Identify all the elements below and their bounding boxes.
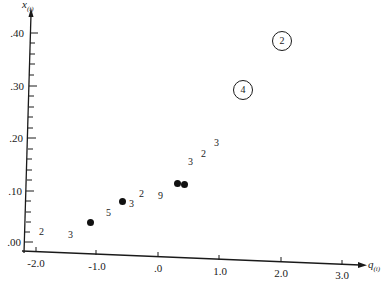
y-tick-label: .40 <box>2 28 24 39</box>
x-tick-label: 3.0 <box>325 270 359 281</box>
data-point-dot <box>174 180 181 187</box>
x-axis-arrow-icon <box>358 262 367 268</box>
x-tick-label: -1.0 <box>80 261 114 272</box>
x-tick-label: 1.0 <box>203 266 237 277</box>
count-label: 5 <box>106 208 111 218</box>
y-tick-label: .20 <box>1 133 23 144</box>
y-tick-label: .30 <box>2 81 24 92</box>
y-axis-label: x(i) <box>22 0 34 15</box>
y-tick-label: .00 <box>0 237 21 248</box>
circled-count-label: 4 <box>233 80 253 100</box>
count-label: 9 <box>158 191 163 201</box>
count-label: 3 <box>129 199 134 209</box>
y-axis-line <box>24 14 31 253</box>
x-tick-label: .0 <box>141 263 175 274</box>
data-point-dot <box>119 198 126 205</box>
count-label: 2 <box>39 227 44 237</box>
count-label: 3 <box>214 138 219 148</box>
data-point-dot <box>87 219 94 226</box>
count-label: 2 <box>201 149 206 159</box>
x-axis-line <box>22 251 360 265</box>
x-tick-label: 2.0 <box>264 268 298 279</box>
circled-count-label: 2 <box>272 31 292 51</box>
y-tick-label: .10 <box>0 186 22 197</box>
data-point-dot <box>181 181 188 188</box>
count-label: 2 <box>139 189 144 199</box>
x-axis-label: q(i) <box>368 259 380 275</box>
x-tick-label: -2.0 <box>19 258 53 269</box>
chart-axes <box>0 0 389 281</box>
count-label: 3 <box>68 230 73 240</box>
count-label: 3 <box>188 157 193 167</box>
